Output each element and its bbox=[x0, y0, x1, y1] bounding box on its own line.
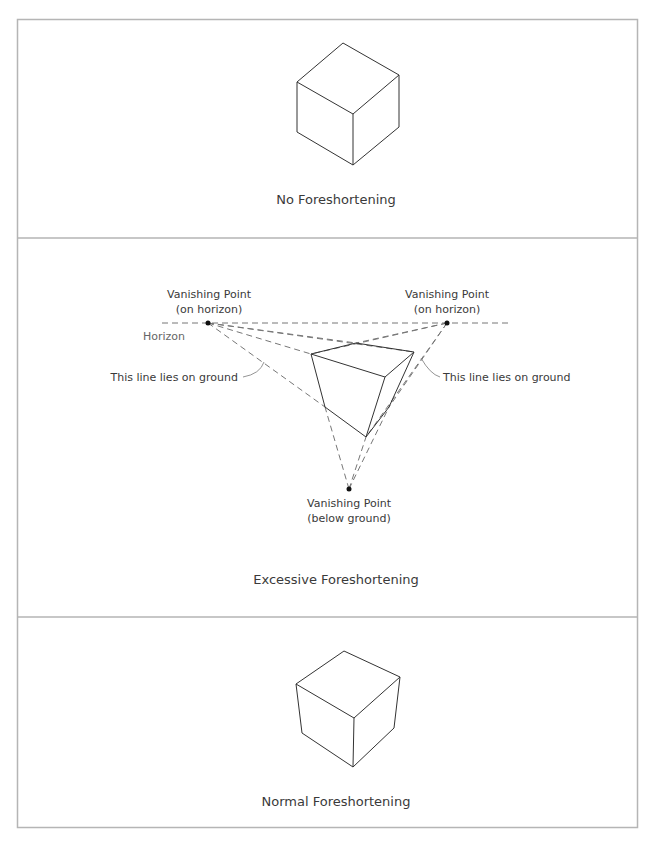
vanishing-point-right bbox=[445, 321, 450, 326]
vp-right-label-line2: (on horizon) bbox=[414, 303, 481, 316]
foreshortening-figure: No Foreshortening Vanishing Point (on ho… bbox=[0, 0, 656, 842]
cube-no-foreshortening bbox=[297, 43, 399, 165]
vanishing-point-left bbox=[206, 321, 211, 326]
caption-excessive-foreshortening: Excessive Foreshortening bbox=[253, 572, 419, 587]
perspective-guides bbox=[208, 323, 447, 489]
cube-normal-foreshortening bbox=[296, 651, 400, 767]
vp-right-label-line1: Vanishing Point bbox=[405, 288, 490, 301]
ground-right-leader bbox=[421, 358, 440, 377]
caption-no-foreshortening: No Foreshortening bbox=[276, 192, 396, 207]
ground-left-label: This line lies on ground bbox=[109, 371, 238, 384]
figure-frame bbox=[18, 20, 638, 828]
horizon-label: Horizon bbox=[143, 330, 185, 343]
cube-excessive-foreshortening bbox=[311, 343, 414, 437]
vanishing-point-bottom bbox=[347, 487, 352, 492]
caption-normal-foreshortening: Normal Foreshortening bbox=[262, 794, 411, 809]
ground-left-leader bbox=[243, 362, 264, 377]
vp-bottom-label-line1: Vanishing Point bbox=[307, 497, 392, 510]
vp-bottom-label-line2: (below ground) bbox=[307, 512, 391, 525]
vp-left-label-line2: (on horizon) bbox=[176, 303, 243, 316]
vp-left-label-line1: Vanishing Point bbox=[167, 288, 252, 301]
ground-right-label: This line lies on ground bbox=[442, 371, 571, 384]
